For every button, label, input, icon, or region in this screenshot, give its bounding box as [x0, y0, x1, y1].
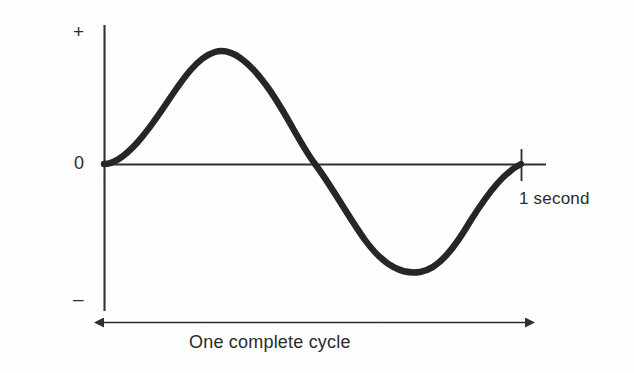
plot-canvas [0, 0, 634, 373]
y-axis-positive-marker: + [73, 22, 84, 41]
one-complete-cycle-label: One complete cycle [189, 333, 351, 351]
sine-wave-curve [104, 51, 521, 273]
y-axis-zero-marker: 0 [74, 154, 84, 172]
one-second-tick-label: 1 second [519, 190, 590, 207]
sine-wave-figure: Voltage + 0 – 1 second One complete cycl… [0, 0, 634, 373]
y-axis-negative-marker: – [73, 289, 84, 308]
